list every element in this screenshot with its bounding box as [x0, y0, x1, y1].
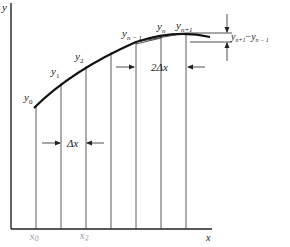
label-y1: y1 — [50, 65, 60, 80]
label-yn-plus-1: yn+1 — [175, 19, 193, 34]
simpsons-rule-diagram: y x y0 y1 y2 yn − 1 yn yn+1 yn+1−yn − 1 … — [0, 0, 290, 247]
label-delta-x: Δx — [66, 137, 78, 149]
label-two-delta-x: 2Δx — [151, 61, 168, 73]
function-curve — [34, 34, 210, 108]
handwritten-x2: x2 — [78, 228, 89, 243]
two-dx-arrow-left-head — [129, 65, 135, 70]
handwritten-x0: x0 — [28, 229, 40, 244]
two-dx-arrow-right-head — [187, 65, 193, 70]
y-axis-label: y — [1, 1, 7, 13]
dx-arrow-right-head — [86, 141, 92, 146]
diff-arrow-top-head — [225, 27, 230, 33]
diff-arrow-bottom-head — [225, 42, 230, 48]
label-yn-minus-1: yn − 1 — [121, 27, 142, 42]
x-axis-label: x — [205, 232, 211, 243]
label-y0: y0 — [23, 91, 33, 106]
label-y2: y2 — [74, 50, 84, 65]
dx-arrow-left-head — [55, 141, 61, 146]
label-yn: yn — [156, 20, 166, 35]
label-difference: yn+1−yn − 1 — [230, 31, 269, 43]
